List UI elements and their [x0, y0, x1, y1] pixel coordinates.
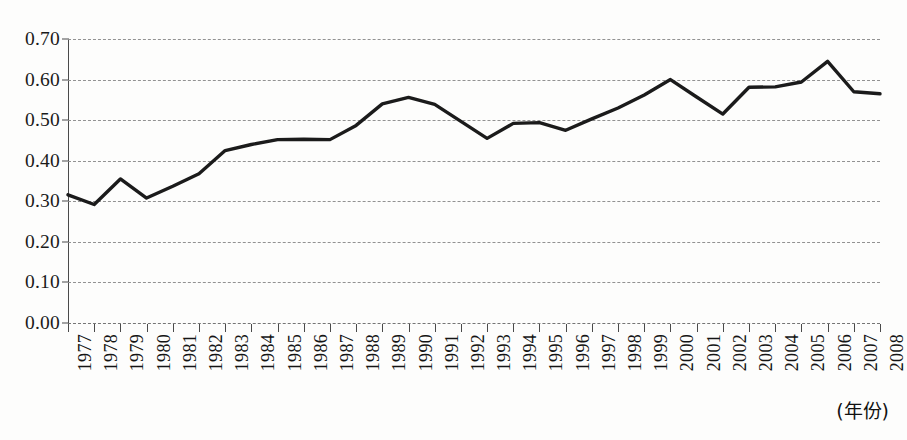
x-axis-title: (年份): [836, 396, 889, 423]
x-tick-label: 1996: [573, 334, 594, 371]
x-tick-mark: [618, 324, 619, 332]
x-tick-mark: [723, 324, 724, 332]
series-line-chart: [68, 39, 880, 323]
x-tick-mark: [199, 324, 200, 332]
x-tick-label: 1989: [389, 334, 410, 371]
x-tick-label: 2004: [782, 334, 803, 371]
x-tick-mark: [356, 324, 357, 332]
x-tick-label: 1981: [180, 334, 201, 371]
x-tick-mark: [461, 324, 462, 332]
x-tick-label: 1995: [546, 334, 567, 371]
x-tick-label: 1987: [337, 334, 358, 371]
y-tick-label: 0.50: [2, 109, 60, 131]
x-tick-mark: [409, 324, 410, 332]
x-tick-mark: [566, 324, 567, 332]
x-tick-mark: [670, 324, 671, 332]
x-tick-label: 1982: [206, 334, 227, 371]
series-1-line: [68, 61, 880, 204]
x-tick-label: 2008: [887, 334, 907, 371]
x-tick-mark: [120, 324, 121, 332]
x-tick-label: 1985: [285, 334, 306, 371]
x-tick-mark: [147, 324, 148, 332]
x-tick-label: 1991: [442, 334, 463, 371]
x-tick-label: 1998: [625, 334, 646, 371]
x-tick-label: 1979: [127, 334, 148, 371]
x-tick-mark: [330, 324, 331, 332]
y-axis-labels: 0.700.600.500.400.300.200.100.00: [0, 39, 60, 323]
x-tick-label: 2003: [756, 334, 777, 371]
x-axis-ticks: [68, 324, 880, 334]
y-tick-label: 0.20: [2, 231, 60, 253]
x-axis-labels: 1977197819791980198119821983198419851986…: [68, 334, 880, 396]
x-tick-mark: [382, 324, 383, 332]
x-tick-mark: [539, 324, 540, 332]
x-tick-mark: [828, 324, 829, 332]
x-tick-mark: [801, 324, 802, 332]
x-tick-label: 1984: [258, 334, 279, 371]
y-tick-label: 0.30: [2, 190, 60, 212]
plot-area: [68, 39, 880, 323]
x-tick-mark: [304, 324, 305, 332]
y-tick-label: 0.10: [2, 271, 60, 293]
x-tick-mark: [487, 324, 488, 332]
x-tick-mark: [644, 324, 645, 332]
x-tick-mark: [225, 324, 226, 332]
x-tick-mark: [697, 324, 698, 332]
x-tick-label: 1983: [232, 334, 253, 371]
x-tick-label: 1990: [416, 334, 437, 371]
x-tick-label: 1988: [363, 334, 384, 371]
x-tick-label: 1997: [599, 334, 620, 371]
x-tick-mark: [592, 324, 593, 332]
y-tick-label: 0.00: [2, 312, 60, 334]
x-tick-label: 2005: [808, 334, 829, 371]
x-tick-label: 1978: [101, 334, 122, 371]
x-tick-mark: [880, 324, 881, 332]
y-tick-label: 0.70: [2, 28, 60, 50]
x-tick-label: 1986: [311, 334, 332, 371]
x-tick-mark: [68, 324, 69, 332]
x-tick-mark: [173, 324, 174, 332]
chart-figure: 0.700.600.500.400.300.200.100.00 1977197…: [0, 0, 907, 440]
x-tick-mark: [278, 324, 279, 332]
x-tick-mark: [775, 324, 776, 332]
x-tick-label: 2002: [730, 334, 751, 371]
y-tick-label: 0.60: [2, 69, 60, 91]
x-tick-mark: [513, 324, 514, 332]
x-tick-label: 1992: [468, 334, 489, 371]
x-tick-label: 1980: [154, 334, 175, 371]
x-tick-mark: [94, 324, 95, 332]
x-tick-label: 1977: [75, 334, 96, 371]
x-tick-label: 1999: [651, 334, 672, 371]
x-tick-label: 2006: [835, 334, 856, 371]
x-tick-mark: [749, 324, 750, 332]
x-tick-label: 2007: [861, 334, 882, 371]
x-tick-label: 2001: [704, 334, 725, 371]
x-tick-label: 1993: [494, 334, 515, 371]
x-tick-mark: [251, 324, 252, 332]
x-tick-label: 1994: [520, 334, 541, 371]
x-tick-mark: [854, 324, 855, 332]
x-tick-label: 2000: [677, 334, 698, 371]
x-tick-mark: [435, 324, 436, 332]
y-tick-label: 0.40: [2, 150, 60, 172]
